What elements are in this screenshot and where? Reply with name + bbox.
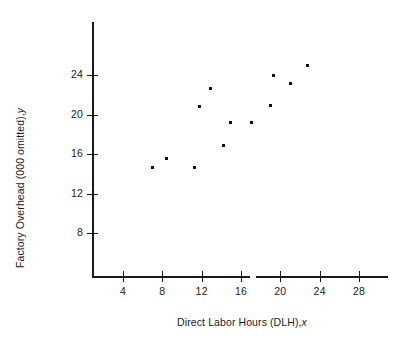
data-point [198,105,201,108]
scatter-plot-screenshot: 812162024 481216202428 Factory Overhead … [0,0,414,345]
y-axis-tick-label: 12 [59,187,83,199]
y-axis-tick-label: 20 [59,108,83,120]
data-point [269,104,272,107]
x-axis-tick [241,271,242,282]
y-axis-tick [87,233,98,234]
x-axis-tick [320,271,321,282]
y-axis-title: Factory Overhead (000 omitted),y [14,18,30,268]
x-axis-title: Direct Labor Hours (DLH),x [92,316,392,328]
chart-plot-area: 812162024 481216202428 Factory Overhead … [0,0,414,345]
x-axis-tick-label: 16 [226,285,256,297]
x-axis-tick-label: 28 [344,285,374,297]
x-axis-tick [280,271,281,282]
x-axis-line-left-segment [92,276,250,278]
data-point [151,166,154,169]
y-axis-title-text: Factory Overhead (000 omitted), [14,113,26,268]
data-point [209,87,212,90]
y-axis-title-variable: y [14,108,26,113]
x-axis-line-right-segment [256,276,388,278]
x-axis-title-text: Direct Labor Hours (DLH), [177,316,301,328]
y-axis-tick [87,75,98,76]
data-point [306,64,309,67]
x-axis-tick-label: 12 [187,285,217,297]
data-point [165,157,168,160]
data-point [229,121,232,124]
x-axis-tick-label: 8 [147,285,177,297]
y-axis-line [92,22,94,278]
y-axis-tick-label: 16 [59,147,83,159]
x-axis-tick [162,271,163,282]
data-point [250,121,253,124]
x-axis-tick [202,271,203,282]
y-axis-tick [87,194,98,195]
y-axis-tick-label: 24 [59,68,83,80]
y-axis-tick [87,115,98,116]
x-axis-tick [359,271,360,282]
y-axis-tick [87,154,98,155]
x-axis-tick-label: 24 [305,285,335,297]
x-axis-tick-label: 4 [108,285,138,297]
x-axis-title-variable: x [302,316,307,328]
y-axis-tick-label: 8 [59,226,83,238]
data-point [193,166,196,169]
data-point [272,74,275,77]
x-axis-tick [123,271,124,282]
data-point [289,82,292,85]
x-axis-tick-label: 20 [265,285,295,297]
data-point [222,144,225,147]
